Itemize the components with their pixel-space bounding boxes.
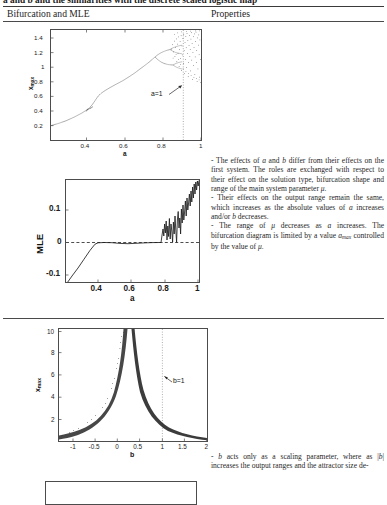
property-item-4: - b acts only as a scaling parameter, wh…	[211, 452, 384, 471]
ytick-bif-a-1: 0.4	[34, 107, 43, 114]
bifurcation-b-canvas	[28, 324, 218, 470]
ytick-bif-a-0: 0.2	[34, 122, 43, 129]
ytick-mle-2: 0.1	[49, 204, 60, 213]
figure-bifurcation-b: 2 4 6 8 10 -1 -0.5 0 0.5 1 1.5 2 b xmax …	[28, 324, 218, 470]
xtick-bif-b-1: -0.5	[89, 443, 100, 450]
yaxis-title-mle: MLE	[34, 234, 45, 254]
property-item-2: - Their effects on the output range rema…	[211, 193, 384, 221]
ytick-bif-b-2: 6	[51, 371, 55, 378]
xaxis-title-mle: a	[130, 294, 135, 303]
ytick-bif-b-0: 2	[51, 416, 55, 423]
ytick-mle-0: -0.1	[46, 269, 60, 278]
ytick-bif-a-6: 1.4	[34, 34, 43, 41]
ytick-mle-1: 0	[57, 237, 62, 246]
ytick-bif-b-4: 10	[47, 328, 54, 335]
table-row-rule	[3, 318, 384, 319]
column-header-bifurcation: Bifurcation and MLE	[7, 8, 90, 20]
bifurcation-a-canvas	[28, 26, 213, 154]
yaxis-title-bif-a: xmax	[27, 77, 35, 90]
ytick-bif-a-2: 0.6	[34, 92, 43, 99]
annotation-b-equals-1: b=1	[173, 377, 185, 384]
ytick-bif-a-5: 1.2	[34, 49, 43, 56]
properties-block-1: - The effects of a and b differ from the…	[211, 156, 384, 252]
xtick-bif-b-6: 2	[205, 443, 209, 450]
xtick-bif-a-1: 0.6	[119, 142, 128, 149]
ytick-bif-b-1: 4	[51, 393, 55, 400]
xaxis-title-bif-b: b	[130, 451, 134, 458]
xaxis-title-bif-a: a	[123, 150, 127, 157]
figure-mle-a: -0.1 0 0.1 0.4 0.6 0.8 1 a MLE	[28, 176, 213, 300]
property-item-3: - The range of μ decreases as a increase…	[211, 221, 384, 251]
table-header-rule	[3, 21, 384, 22]
xtick-mle-2: 0.8	[158, 284, 169, 293]
xtick-mle-3: 1	[195, 284, 200, 293]
mle-a-canvas	[28, 176, 213, 300]
xtick-bif-a-0: 0.4	[81, 142, 90, 149]
ytick-bif-a-4: 1	[41, 63, 44, 70]
figure-bifurcation-a: 0.2 0.4 0.6 0.8 1 1.2 1.4 0.4 0.6 0.8 1 …	[28, 26, 213, 154]
xtick-bif-a-2: 0.8	[157, 142, 166, 149]
ytick-bif-a-3: 0.8	[34, 78, 43, 85]
plot-area-next-figure-partial	[45, 481, 197, 505]
xtick-bif-a-3: 1	[199, 142, 202, 149]
properties-block-2: - b acts only as a scaling parameter, wh…	[211, 452, 384, 471]
xtick-mle-1: 0.6	[124, 284, 135, 293]
property-item-1: - The effects of a and b differ from the…	[211, 156, 384, 193]
column-header-properties: Properties	[211, 8, 250, 20]
xtick-bif-b-2: 0	[115, 443, 119, 450]
xtick-bif-b-3: 0.5	[133, 443, 142, 450]
ytick-bif-b-3: 8	[51, 349, 55, 356]
xtick-bif-b-0: -1	[70, 443, 76, 450]
yaxis-title-bif-b: xmax	[34, 378, 42, 392]
annotation-a-equals-1: a=1	[151, 90, 163, 97]
xtick-mle-0: 0.4	[91, 284, 102, 293]
xtick-bif-b-4: 1	[160, 443, 164, 450]
xtick-bif-b-5: 1.5	[178, 443, 187, 450]
